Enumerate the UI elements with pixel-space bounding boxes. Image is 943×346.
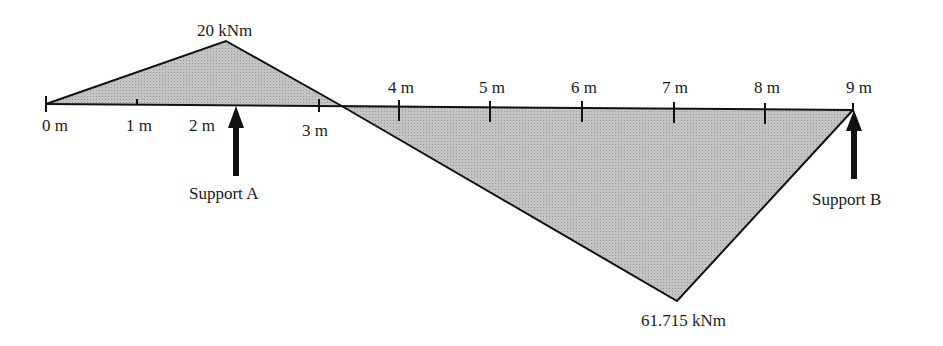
positive-moment-region xyxy=(46,41,340,105)
tick-label-9: 9 m xyxy=(846,78,872,97)
negative-moment-region xyxy=(340,105,853,301)
positive-peak-label: 20 kNm xyxy=(197,21,252,40)
tick-label-4: 4 m xyxy=(388,78,414,97)
support-a-arrow-icon xyxy=(228,106,244,176)
tick-label-3: 3 m xyxy=(302,121,328,140)
support-a-label: Support A xyxy=(189,184,259,203)
tick-label-6: 6 m xyxy=(571,78,597,97)
support-b-arrow-icon xyxy=(846,110,862,179)
bending-moment-diagram: 0 m 1 m 2 m 3 m 4 m 5 m 6 m 7 m 8 m 9 m … xyxy=(0,0,943,346)
negative-peak-label: 61.715 kNm xyxy=(641,311,726,330)
tick-label-2: 2 m xyxy=(189,116,215,135)
support-b-label: Support B xyxy=(812,190,881,209)
tick-label-8: 8 m xyxy=(754,78,780,97)
tick-label-1: 1 m xyxy=(126,116,152,135)
tick-label-7: 7 m xyxy=(662,78,688,97)
tick-label-0: 0 m xyxy=(42,116,68,135)
tick-label-5: 5 m xyxy=(479,78,505,97)
